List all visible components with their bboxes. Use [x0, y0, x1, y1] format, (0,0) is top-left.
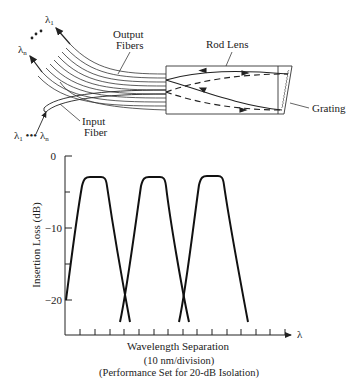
- figure-canvas: λ1 λn Output Fibers Input Fiber λ1 ••• λ…: [0, 0, 358, 387]
- arrow-lambda-n: [30, 56, 42, 72]
- leader-output-fibers: [118, 52, 130, 74]
- label-input-lambdas: λ1 ••• λn: [14, 129, 49, 143]
- ytick-minus-20: −20: [45, 294, 63, 306]
- leader-grating: [290, 103, 309, 108]
- label-output-fibers-2: Fibers: [116, 39, 144, 51]
- label-lambda-n-top: λn: [18, 43, 27, 57]
- y-axis-label: Insertion Loss (dB): [30, 202, 43, 288]
- label-lambda-1-top: λ1: [45, 13, 54, 27]
- leader-input-fiber: [60, 104, 80, 121]
- ytick-0: 0: [51, 150, 57, 162]
- label-grating: Grating: [312, 102, 346, 114]
- x-axis-symbol: λ: [297, 328, 303, 340]
- x-axis-label: Wavelength Separation: [127, 340, 230, 352]
- x-axis-units: (10 nm/division): [0, 355, 358, 367]
- channel-1-curve: [66, 177, 130, 322]
- ellipsis-dot: [40, 30, 43, 33]
- ytick-minus-10: −10: [45, 222, 63, 234]
- ellipsis-dot: [31, 37, 34, 40]
- figure-caption: (Performance Set for 20-dB Isolation): [0, 367, 358, 379]
- chart-axes: [65, 156, 291, 335]
- lens-rays: [166, 69, 288, 113]
- arrow-lambda-1: [56, 28, 70, 44]
- label-rod-lens: Rod Lens: [206, 38, 248, 50]
- ellipsis-dot: [35, 33, 38, 36]
- label-input-fiber-2: Fiber: [84, 126, 108, 138]
- chart-curves: [66, 176, 248, 322]
- channel-2-curve: [120, 177, 189, 322]
- leader-rod-lens: [226, 52, 232, 66]
- channel-3-curve: [179, 176, 248, 322]
